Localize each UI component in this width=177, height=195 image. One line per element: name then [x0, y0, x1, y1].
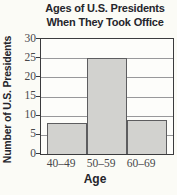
x-axis-title: Age: [75, 172, 115, 186]
x-category-label-50–59: 50–59: [81, 157, 121, 169]
y-tick-mark-5: [36, 134, 40, 135]
plot-area: [40, 38, 174, 155]
x-category-label-40–49: 40–49: [41, 157, 81, 169]
y-tick-mark-20: [36, 76, 40, 77]
x-category-label-60–69: 60–69: [121, 157, 161, 169]
bar-40–49: [47, 123, 87, 154]
chart-title: Ages of U.S. Presidents When They Took O…: [33, 2, 177, 29]
bar-60–69: [127, 120, 167, 155]
chart-title-line1: Ages of U.S. Presidents: [33, 2, 177, 16]
histogram-chart: Ages of U.S. Presidents When They Took O…: [0, 0, 177, 195]
y-tick-label-30: 30: [14, 33, 36, 44]
y-tick-label-10: 10: [14, 109, 36, 120]
bar-50–59: [87, 58, 127, 154]
y-axis-label: Number of U.S. Presidents: [1, 31, 14, 169]
y-tick-label-20: 20: [14, 71, 36, 82]
y-tick-mark-0: [36, 153, 40, 154]
y-tick-label-0: 0: [14, 148, 36, 159]
y-tick-label-15: 15: [14, 90, 36, 101]
y-tick-mark-10: [36, 115, 40, 116]
chart-title-line2: When They Took Office: [33, 16, 177, 30]
y-tick-mark-25: [36, 57, 40, 58]
y-tick-mark-15: [36, 96, 40, 97]
y-tick-label-5: 5: [14, 128, 36, 139]
y-tick-label-25: 25: [14, 52, 36, 63]
y-tick-mark-30: [36, 38, 40, 39]
